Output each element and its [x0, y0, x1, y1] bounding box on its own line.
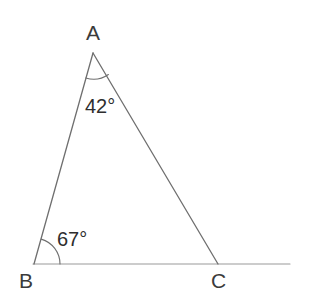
vertex-label-c: C — [211, 270, 226, 291]
geometry-canvas — [0, 0, 309, 307]
geometry-figure: A B C 42° 67° — [0, 0, 309, 307]
vertex-label-b: B — [19, 270, 33, 291]
angle-label-a: 42° — [85, 96, 115, 116]
angle-label-b: 67° — [57, 229, 87, 249]
angle-arc-a — [86, 75, 109, 80]
side-ac — [93, 53, 218, 264]
vertex-label-a: A — [86, 22, 100, 43]
